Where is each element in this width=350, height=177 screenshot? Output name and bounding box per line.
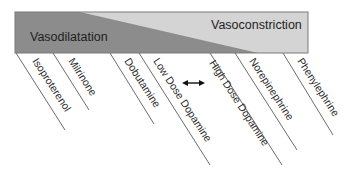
drug-label-phenylephrine: Phenylephrine	[295, 56, 342, 119]
drug-label-norepinephrine: Norepinephrine	[247, 56, 296, 123]
vasoconstriction-label: Vasoconstriction	[211, 18, 302, 32]
vasodilatation-label: Vasodilatation	[30, 30, 108, 44]
double-headed-arrow-icon	[182, 80, 205, 86]
drug-label-milrinone: Milrinone	[66, 56, 99, 98]
drug-label-isoproterenol: Isoproterenol	[30, 56, 73, 114]
vasoactive-spectrum-diagram: Vasodilatation Vasoconstriction Isoprote…	[0, 0, 350, 177]
line-low-dose-dopamine	[139, 53, 210, 165]
